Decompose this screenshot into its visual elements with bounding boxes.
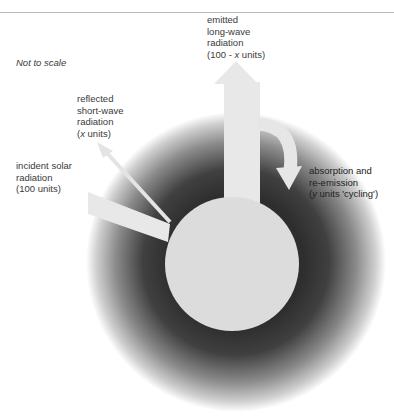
not-to-scale-note: Not to scale — [16, 57, 66, 68]
planet-surface — [165, 197, 299, 331]
absorption-label: absorption and re-emission (y units 'cyc… — [309, 165, 378, 200]
reflected-label: reflected short-wave radiation (x units) — [77, 93, 123, 139]
incident-label: incident solar radiation (100 units) — [16, 160, 72, 195]
emitted-label: emitted long-wave radiation (100 - x uni… — [207, 14, 265, 60]
